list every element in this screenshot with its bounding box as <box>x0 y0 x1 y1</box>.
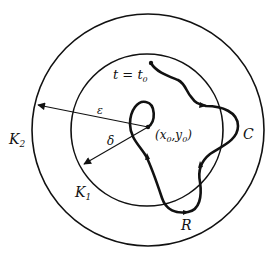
center-point-dot <box>146 125 150 129</box>
label-k1: K1 <box>74 184 91 202</box>
start-point-dot <box>149 61 153 65</box>
stability-diagram: K2 K1 ε δ (x0,y0) t = t0 C R <box>0 0 273 256</box>
label-r: R <box>180 217 192 233</box>
label-epsilon: ε <box>97 104 103 117</box>
label-k2: K2 <box>8 131 25 149</box>
label-point: (x0,y0) <box>155 128 192 144</box>
label-c: C <box>243 126 254 142</box>
label-t-start: t = t0 <box>113 67 148 84</box>
outer-circle-k2 <box>32 14 264 246</box>
label-delta: δ <box>107 134 114 148</box>
